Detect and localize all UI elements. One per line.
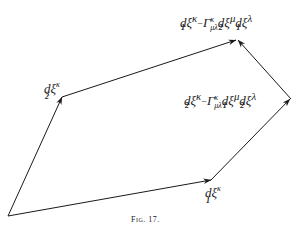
edge-origin-to-d1: [8, 180, 211, 216]
index: 1: [206, 197, 210, 205]
index: 2: [185, 102, 189, 110]
label-top: dξκ 1 −Γκμλ dξμ 2 dξλ 1: [180, 13, 252, 32]
index: 1: [181, 24, 185, 32]
term-d2: dξκ 2: [44, 82, 60, 95]
term-right-1: dξκ 2: [184, 91, 201, 107]
edge-origin-to-d2: [8, 97, 62, 216]
superscript: κ: [196, 90, 201, 102]
label-d2: dξκ 2: [44, 82, 60, 95]
index: 2: [45, 93, 49, 101]
index: 2: [219, 24, 223, 32]
superscript: κ: [56, 80, 60, 89]
superscript: κ: [217, 184, 221, 193]
parallelogram-diagram: [0, 0, 299, 234]
superscript: λ: [251, 90, 256, 102]
index: 1: [236, 24, 240, 32]
christoffel-symbol: Γκμλ: [207, 94, 222, 110]
gamma-subscript: μλ: [214, 102, 221, 110]
gamma-subscript: μλ: [210, 24, 217, 32]
term-d1: dξκ 1: [205, 186, 221, 199]
label-d1: dξκ 1: [205, 186, 221, 199]
christoffel-symbol: Γκμλ: [203, 16, 218, 32]
term-top-3: dξλ 1: [235, 13, 252, 29]
superscript: κ: [192, 12, 197, 24]
index: 2: [240, 102, 244, 110]
term-right-3: dξλ 2: [239, 91, 256, 107]
edge-d1-to-right: [211, 99, 290, 180]
term-top-1: dξκ 1: [180, 13, 197, 29]
figure-caption: Fig. 17.: [131, 215, 160, 224]
label-right: dξκ 2 −Γκμλ dξμ 1 dξλ 2: [184, 91, 256, 110]
index: 1: [223, 102, 227, 110]
edge-d2-to-top: [62, 40, 236, 97]
superscript: λ: [247, 12, 252, 24]
term-top-2: dξμ 2: [218, 13, 236, 29]
term-right-2: dξμ 1: [222, 91, 240, 107]
